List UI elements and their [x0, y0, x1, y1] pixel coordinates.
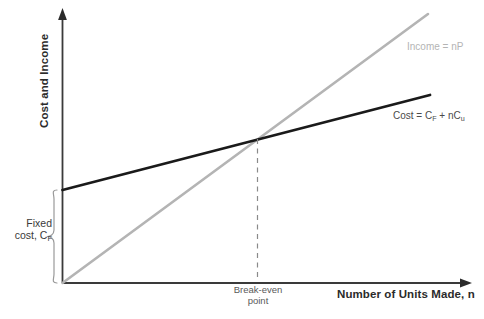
break-even-label-line-2: point	[217, 295, 299, 306]
break-even-point-label: Break-even point	[217, 284, 299, 306]
cost-line	[63, 95, 431, 190]
fixed-cost-label-line-2: cost, CF	[8, 229, 52, 244]
y-axis-arrowhead	[58, 8, 67, 20]
fixed-cost-label: Fixed cost, CF	[8, 217, 52, 244]
cost-label-part-1: Cost = C	[393, 110, 432, 121]
x-axis-title: Number of Units Made, n	[337, 288, 475, 302]
cost-line-label: Cost = CF + nCu	[393, 110, 465, 124]
break-even-label-line-1: Break-even	[217, 284, 299, 295]
cost-label-part-2: + nC	[437, 110, 461, 121]
fixed-cost-label-text: cost, C	[15, 229, 48, 241]
break-even-chart: Cost and Income Number of Units Made, n …	[0, 0, 484, 319]
x-axis-arrowhead	[460, 279, 472, 288]
cost-label-subscript-u: u	[461, 114, 465, 123]
y-axis-title: Cost and Income	[38, 0, 56, 128]
fixed-cost-label-line-1: Fixed	[8, 217, 52, 229]
fixed-cost-label-subscript-f: F	[47, 234, 52, 243]
income-line	[63, 14, 429, 283]
income-line-label: Income = nP	[407, 41, 463, 53]
y-axis	[58, 8, 67, 283]
